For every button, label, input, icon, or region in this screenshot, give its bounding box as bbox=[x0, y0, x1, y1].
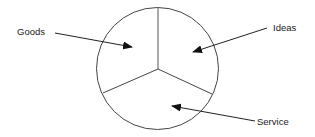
service-label: Service bbox=[257, 116, 289, 127]
service-arrow-icon bbox=[172, 106, 255, 121]
goods-arrow-icon bbox=[55, 33, 132, 47]
service-callout: Service bbox=[172, 106, 289, 127]
diagram-canvas: Goods Ideas Service bbox=[0, 0, 315, 137]
goods-label: Goods bbox=[17, 26, 45, 37]
divider-left bbox=[103, 69, 158, 93]
ideas-arrow-icon bbox=[193, 28, 267, 52]
ideas-callout: Ideas bbox=[193, 22, 296, 52]
goods-callout: Goods bbox=[17, 26, 132, 47]
divider-right bbox=[158, 69, 212, 94]
ideas-label: Ideas bbox=[273, 22, 296, 33]
